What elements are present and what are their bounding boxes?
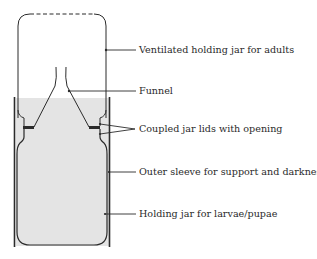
leader-bottom-jar-dot <box>104 213 106 215</box>
leader-funnel-dot <box>68 90 70 92</box>
label-coupled-lids: Coupled jar lids with opening <box>139 123 282 135</box>
coupled-lid-right <box>89 126 100 129</box>
leader-top-jar-dot <box>105 49 107 51</box>
label-funnel: Funnel <box>139 85 173 97</box>
coupled-lid-left <box>23 126 34 129</box>
label-top-jar: Ventilated holding jar for adults <box>139 44 294 56</box>
label-bottom-jar: Holding jar for larvae/pupae <box>139 208 277 220</box>
sleeve-interior-fill <box>16 98 109 246</box>
label-outer-sleeve: Outer sleeve for support and darkness <box>139 166 317 178</box>
leader-lids-upper-dot <box>99 123 101 125</box>
leader-sleeve-dot <box>108 171 110 173</box>
leader-lids-lower-dot <box>99 133 101 135</box>
